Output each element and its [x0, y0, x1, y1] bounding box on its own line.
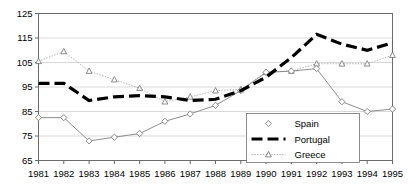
x-axis-label-1985: 1985 [129, 168, 150, 179]
legend-label-spain: Spain [295, 118, 319, 129]
data-point-greece-1983 [86, 68, 92, 73]
data-point-greece-1981 [36, 58, 42, 63]
y-axis-label-95: 95 [22, 81, 33, 92]
y-axis-label-75: 75 [22, 130, 33, 141]
y-axis-label-115: 115 [17, 32, 32, 43]
data-point-spain-1994 [364, 108, 370, 114]
chart-legend: SpainPortugalGreece [247, 114, 360, 163]
x-axis-label-1994: 1994 [357, 168, 378, 179]
legend-label-greece: Greece [295, 149, 326, 160]
data-point-spain-1984 [111, 134, 117, 140]
x-axis-label-1992: 1992 [306, 168, 327, 179]
x-axis-label-1981: 1981 [28, 168, 49, 179]
x-axis-label-1989: 1989 [230, 168, 251, 179]
data-point-greece-1982 [61, 48, 67, 53]
x-axis-label-1995: 1995 [382, 168, 403, 179]
y-axis-label-85: 85 [22, 106, 33, 117]
data-point-greece-1988 [213, 88, 219, 93]
x-axis-label-1993: 1993 [331, 168, 352, 179]
x-axis-label-1990: 1990 [256, 168, 277, 179]
x-axis-label-1988: 1988 [205, 168, 226, 179]
legend-label-portugal: Portugal [295, 134, 330, 145]
series-line-greece [39, 51, 393, 101]
x-axis-tick-labels: 1981198219831984198519861987198819891990… [28, 168, 403, 179]
chart-canvas: 65758595105115125 1981198219831984198519… [0, 0, 409, 193]
data-point-greece-1995 [390, 52, 396, 57]
series-greece [36, 48, 396, 104]
y-axis-label-105: 105 [17, 57, 33, 68]
y-axis-label-125: 125 [17, 8, 33, 19]
x-axis-label-1986: 1986 [154, 168, 175, 179]
data-point-spain-1986 [162, 118, 168, 124]
y-axis-tick-labels: 65758595105115125 [17, 8, 33, 166]
x-axis-label-1983: 1983 [79, 168, 100, 179]
y-tick-marks [35, 14, 39, 161]
data-point-greece-1984 [112, 77, 118, 82]
x-axis-label-1987: 1987 [180, 168, 201, 179]
data-point-spain-1988 [212, 102, 218, 108]
data-point-spain-1981 [35, 115, 41, 121]
line-chart: 65758595105115125 1981198219831984198519… [0, 0, 409, 193]
x-axis-label-1982: 1982 [53, 168, 74, 179]
x-axis-label-1984: 1984 [104, 168, 125, 179]
y-axis-label-65: 65 [22, 155, 33, 166]
x-axis-label-1991: 1991 [281, 168, 302, 179]
